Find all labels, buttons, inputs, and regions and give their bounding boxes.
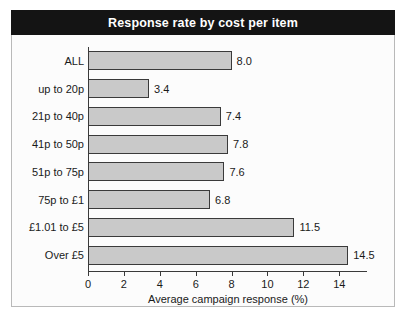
category-label: Over £5 [0, 249, 84, 261]
bar[interactable] [88, 79, 149, 98]
bar-row: 7.4 [88, 107, 368, 126]
x-axis-line [88, 271, 367, 272]
category-label: 41p to 50p [0, 138, 84, 150]
bar[interactable] [88, 218, 294, 237]
x-tick-mark [88, 271, 89, 276]
chart-title: Response rate by cost per item [108, 16, 298, 30]
x-tick-mark [267, 271, 268, 276]
x-tick-mark [232, 271, 233, 276]
bar[interactable] [88, 107, 221, 126]
bar-value-label: 7.8 [233, 138, 248, 150]
x-tick-label: 2 [121, 278, 127, 290]
category-label: 75p to £1 [0, 194, 84, 206]
x-tick-label: 0 [85, 278, 91, 290]
x-tick-label: 4 [157, 278, 163, 290]
bar-value-label: 6.8 [215, 194, 230, 206]
bar-row: 6.8 [88, 190, 368, 209]
bar-value-label: 8.0 [237, 55, 252, 67]
x-tick-label: 12 [297, 278, 309, 290]
bar-row: 7.8 [88, 135, 368, 154]
x-tick-label: 14 [333, 278, 345, 290]
category-label: £1.01 to £5 [0, 221, 84, 233]
x-tick-mark [339, 271, 340, 276]
bar-value-label: 7.4 [226, 110, 241, 122]
bar-value-label: 3.4 [154, 83, 169, 95]
bar-row: 3.4 [88, 79, 368, 98]
bar-row: 7.6 [88, 162, 368, 181]
chart-figure: Response rate by cost per item ALLup to … [0, 0, 405, 317]
category-label: 21p to 40p [0, 110, 84, 122]
bar[interactable] [88, 246, 348, 265]
category-label: up to 20p [0, 83, 84, 95]
category-label: 51p to 75p [0, 166, 84, 178]
y-axis-category-labels: ALLup to 20p21p to 40p41p to 50p51p to 7… [0, 47, 84, 269]
bar-value-label: 7.6 [229, 166, 244, 178]
bar-value-label: 14.5 [353, 249, 374, 261]
x-tick-mark [196, 271, 197, 276]
bar[interactable] [88, 51, 232, 70]
bar[interactable] [88, 135, 228, 154]
x-axis-title: Average campaign response (%) [88, 293, 368, 305]
bar[interactable] [88, 162, 224, 181]
x-tick-mark [124, 271, 125, 276]
x-tick-mark [303, 271, 304, 276]
bar-value-label: 11.5 [299, 221, 320, 233]
x-tick-mark [160, 271, 161, 276]
plot-area: 8.03.47.47.87.66.811.514.5 [88, 47, 368, 269]
bar-row: 14.5 [88, 246, 368, 265]
bar[interactable] [88, 190, 210, 209]
bar-row: 8.0 [88, 51, 368, 70]
x-tick-label: 8 [229, 278, 235, 290]
x-tick-label: 10 [261, 278, 273, 290]
chart-title-bar: Response rate by cost per item [11, 10, 395, 35]
category-label: ALL [0, 55, 84, 67]
bar-row: 11.5 [88, 218, 368, 237]
x-tick-label: 6 [193, 278, 199, 290]
